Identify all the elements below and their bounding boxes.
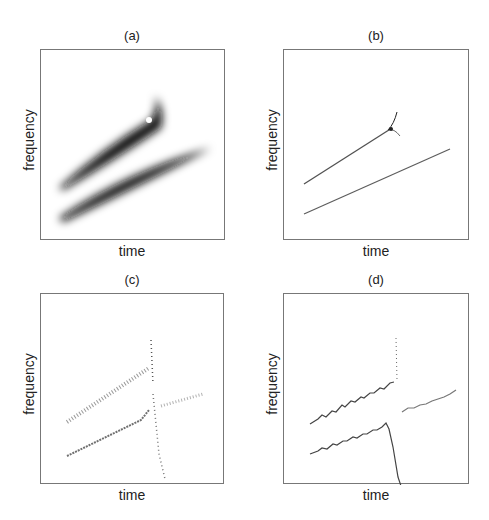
panel-a-xlabel: time: [102, 243, 162, 259]
panel-c-xlabel: time: [102, 487, 162, 503]
panel-a-title: (a): [102, 28, 162, 43]
panel-a-ylabel: frequency: [21, 95, 37, 185]
panel-b-xlabel: time: [346, 243, 406, 259]
panel-b-ylabel: frequency: [264, 95, 280, 185]
panel-a-spectrogram: [41, 50, 226, 241]
panel-c-ridge-dots: [41, 294, 225, 485]
panel-c-title: (c): [102, 272, 162, 287]
panel-c-ylabel: frequency: [21, 339, 37, 429]
panel-a-plot-area: [40, 49, 225, 240]
panel-c-plot-area: [40, 293, 224, 484]
panel-b-spectrogram: [284, 50, 470, 241]
panel-b-plot-area: [283, 49, 469, 240]
panel-d-title: (d): [346, 272, 406, 287]
panel-d-ridge-curves: [284, 294, 470, 485]
panel-d-plot-area: [283, 293, 469, 484]
panel-d-ylabel: frequency: [264, 339, 280, 429]
panel-b-title: (b): [346, 28, 406, 43]
panel-d-xlabel: time: [346, 487, 406, 503]
